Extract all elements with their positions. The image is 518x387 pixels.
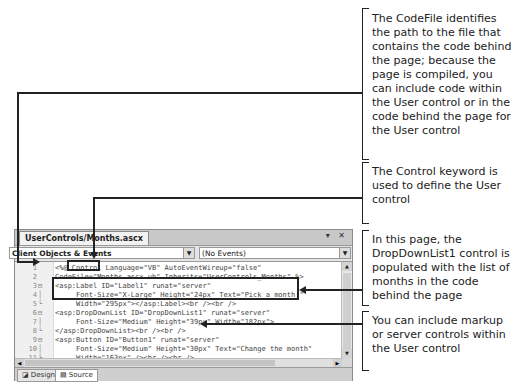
callout-bracket: [362, 311, 369, 371]
callout-control-keyword: The Control keyword is used to define th…: [372, 165, 516, 207]
code-line: 5└ Width="295px"></asp:Label><br /><br /…: [15, 300, 342, 309]
view-tab-bar: ◪ Design ▤ Source: [15, 367, 352, 381]
code-line: 1<%@ Control Language="VB" AutoEventWire…: [15, 264, 342, 273]
arrow-icon: [33, 258, 40, 266]
callout-bracket: [362, 230, 369, 306]
code-line: 10│ Font-Size="Medium" Height="30px" Tex…: [15, 345, 342, 354]
code-line: 9⊟<asp:Button ID="Button1" runat="server…: [15, 336, 342, 345]
scroll-right-icon[interactable]: ▶: [333, 359, 342, 367]
document-tab[interactable]: UserControls/Months.ascx: [19, 231, 149, 245]
arrow-icon: [299, 286, 306, 294]
callout-markup: You can include markup or server control…: [372, 314, 516, 356]
leader-line: [206, 323, 362, 325]
leader-line: [93, 197, 95, 253]
callout-codefile: The CodeFile identifies the path to the …: [372, 12, 516, 138]
collapse-icon[interactable]: ⊟: [38, 282, 45, 291]
scroll-thumb[interactable]: [25, 360, 275, 366]
chevron-down-icon[interactable]: ▼: [183, 248, 194, 258]
leader-line: [305, 289, 362, 291]
callout-bracket: [362, 8, 369, 160]
arrow-icon: [200, 320, 207, 328]
source-view-tab[interactable]: ▤ Source: [55, 369, 98, 382]
source-icon: ▤: [60, 371, 69, 379]
arrow-icon: [90, 252, 98, 259]
window-buttons[interactable]: ▾ ✕: [326, 231, 348, 240]
scroll-left-icon[interactable]: ◀: [15, 359, 24, 367]
control-keyword-highlight: [67, 260, 100, 271]
collapse-icon[interactable]: ⊟: [38, 336, 45, 345]
code-editor-window: UserControls/Months.ascx ▾ ✕ Client Obje…: [14, 229, 353, 381]
collapse-icon[interactable]: ⊟: [38, 309, 45, 318]
dropdownlist-highlight: [52, 277, 299, 300]
callout-bracket: [362, 162, 369, 224]
design-view-tab[interactable]: ◪ Design: [17, 369, 60, 382]
design-icon: ◪: [22, 371, 31, 379]
leader-line: [93, 197, 362, 199]
scroll-down-icon[interactable]: ▼: [342, 349, 352, 358]
event-dropdown[interactable]: (No Events) ▼: [199, 247, 351, 259]
code-line: 8└</asp:DropDownList><br /><br />: [15, 327, 342, 336]
horizontal-scrollbar[interactable]: ◀ ▶: [15, 358, 342, 367]
leader-line: [17, 92, 19, 262]
code-line: 6⊟<asp:DropDownList ID="DropDownList1" r…: [15, 309, 342, 318]
leader-line: [17, 92, 362, 94]
chevron-down-icon[interactable]: ▼: [339, 248, 350, 258]
navigation-bar: Client Objects & Events ▼ (No Events) ▼: [15, 246, 352, 262]
document-tab-bar: UserControls/Months.ascx ▾ ✕: [15, 230, 352, 246]
callout-dropdownlist: In this page, the DropDownList1 control …: [372, 233, 516, 303]
vertical-scrollbar[interactable]: ▲ ▼: [341, 262, 352, 358]
scroll-up-icon[interactable]: ▲: [342, 262, 352, 271]
scroll-thumb[interactable]: [343, 273, 351, 353]
event-dropdown-value: (No Events): [202, 249, 246, 258]
